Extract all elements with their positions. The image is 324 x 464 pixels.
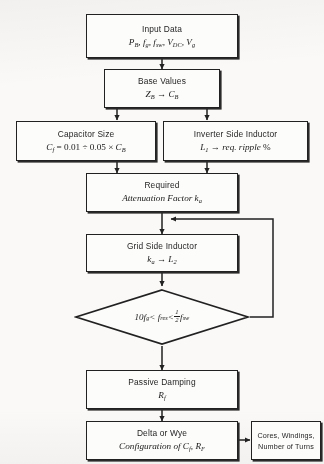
- node-grid-side-inductor-title: Grid Side Inductor: [127, 241, 197, 252]
- node-delta-or-wye: Delta or Wye Configuration of Cf, RF: [86, 421, 238, 460]
- node-resonance-check-condition: 10fg < fres < 12 fsw: [74, 288, 250, 346]
- node-delta-or-wye-title: Delta or Wye: [137, 428, 187, 439]
- node-base-values: Base Values ZB → CB: [104, 69, 220, 108]
- node-cores-windings-line1: Cores, Windings,: [257, 431, 314, 440]
- node-input-data: Input Data PB, fg, fsw, VDC, Vg: [86, 14, 238, 58]
- node-input-data-formula: PB, fg, fsw, VDC, Vg: [129, 37, 195, 49]
- flowchart-canvas: Input Data PB, fg, fsw, VDC, Vg Base Val…: [0, 0, 324, 464]
- node-required-attenuation-title: Required: [144, 180, 179, 191]
- node-passive-damping: Passive Damping Rf: [86, 370, 238, 409]
- node-capacitor-size: Capacitor Size Cf = 0.01 ÷ 0.05 × CB: [16, 121, 156, 161]
- node-grid-side-inductor: Grid Side Inductor ka → L2: [86, 234, 238, 272]
- node-inverter-side-inductor: Inverter Side Inductor L1 → req. ripple …: [163, 121, 308, 161]
- node-passive-damping-title: Passive Damping: [128, 377, 195, 388]
- node-base-values-formula: ZB → CB: [146, 89, 179, 101]
- node-passive-damping-formula: Rf: [158, 390, 165, 402]
- node-required-attenuation: Required Attenuation Factor ka: [86, 173, 238, 212]
- node-required-attenuation-formula: Attenuation Factor ka: [122, 193, 202, 205]
- node-cores-windings-line2: Number of Turns: [258, 442, 314, 451]
- node-capacitor-size-formula: Cf = 0.01 ÷ 0.05 × CB: [46, 142, 125, 154]
- node-input-data-title: Input Data: [142, 24, 182, 35]
- node-inverter-side-inductor-title: Inverter Side Inductor: [194, 129, 277, 140]
- node-delta-or-wye-formula: Configuration of Cf, RF: [119, 441, 205, 453]
- node-grid-side-inductor-formula: ka → L2: [147, 254, 176, 266]
- node-resonance-check: 10fg < fres < 12 fsw: [74, 288, 250, 346]
- node-cores-windings: Cores, Windings, Number of Turns: [251, 421, 321, 460]
- node-inverter-side-inductor-formula: L1 → req. ripple %: [200, 142, 271, 154]
- node-base-values-title: Base Values: [138, 76, 186, 87]
- node-capacitor-size-title: Capacitor Size: [58, 129, 115, 140]
